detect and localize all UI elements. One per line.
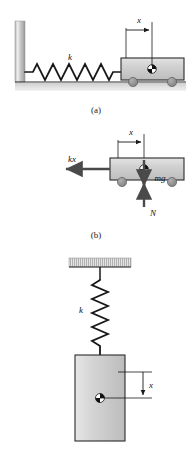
spring-constant-label-c: k bbox=[79, 305, 84, 315]
horizontal-spring bbox=[25, 64, 121, 80]
caption-b: (b) bbox=[91, 230, 102, 240]
displacement-label-c: x bbox=[148, 380, 153, 390]
wheel-right-b bbox=[167, 177, 176, 186]
wheel-right-a bbox=[167, 77, 176, 86]
wheel-left-b bbox=[117, 177, 126, 186]
displacement-dimension-b bbox=[118, 134, 144, 158]
panel-a: k x (a) bbox=[15, 15, 186, 115]
vertical-spring bbox=[92, 267, 108, 355]
weight-label: mg bbox=[155, 173, 166, 183]
spring-force-label: kx bbox=[68, 154, 76, 164]
ground bbox=[15, 82, 186, 90]
wall bbox=[15, 21, 25, 82]
normal-force-label: N bbox=[149, 208, 157, 218]
displacement-label-a: x bbox=[136, 15, 141, 25]
ceiling bbox=[69, 258, 131, 267]
spring-constant-label-a: k bbox=[68, 52, 73, 62]
wheel-left-a bbox=[128, 77, 137, 86]
caption-a: (a) bbox=[91, 105, 101, 115]
physics-figure: k x (a) bbox=[0, 0, 195, 452]
panel-c: k x bbox=[69, 258, 153, 441]
displacement-label-b: x bbox=[128, 127, 133, 137]
panel-b: kx mg N x (b) bbox=[66, 127, 184, 240]
